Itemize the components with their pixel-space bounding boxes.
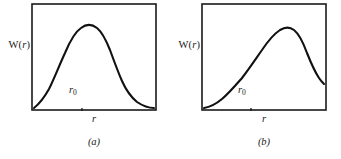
panel-a: W(r) r0 r (a) [0,0,170,159]
panel-b: W(r) r0 r (b) [170,0,340,159]
y-axis-label-b: W(r) [171,39,200,51]
r0-label-b: r0 [238,84,246,98]
y-axis-label-b-suffix: ) [196,39,200,50]
panel-caption-b: (b) [201,136,327,148]
plot-frame-a [31,3,157,111]
x-axis-label-a: r [31,113,157,125]
plot-border-a [32,4,156,110]
plot-frame-b [201,3,327,111]
y-axis-label-a-prefix: W( [9,39,23,50]
r0-label-a-subscript: 0 [73,88,77,97]
y-axis-label-a-suffix: ) [26,39,30,50]
panel-caption-a: (a) [31,136,157,148]
plot-border-b [202,4,326,110]
distribution-curve-b [204,28,324,108]
x-axis-label-b: r [201,113,327,125]
r0-label-a: r0 [69,84,77,98]
figure-root: W(r) r0 r (a) W(r) r0 [0,0,341,159]
y-axis-label-b-prefix: W( [179,39,193,50]
y-axis-label-a: W(r) [1,39,30,51]
distribution-curve-a [34,25,154,108]
r0-label-b-subscript: 0 [242,88,246,97]
